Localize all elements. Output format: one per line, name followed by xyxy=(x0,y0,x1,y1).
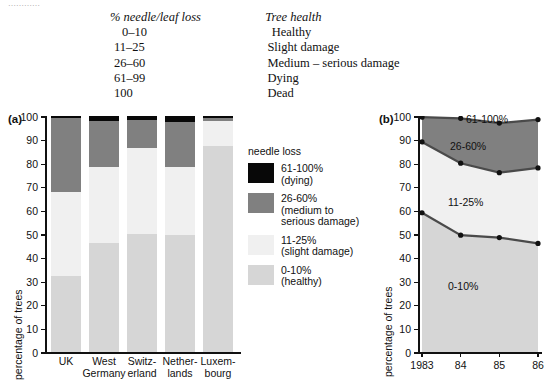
chart-panel-b: (b) percentage of trees 0102030405060708… xyxy=(374,105,546,380)
panel-b-y-tick-label: 60 xyxy=(385,206,411,216)
bar-segment-dying xyxy=(127,116,157,120)
panel-a-y-tick-label: 30 xyxy=(12,277,38,287)
key-loss-value: 0–10 xyxy=(100,25,272,40)
panel-b-x-tick xyxy=(421,353,422,357)
data-point-marker[interactable] xyxy=(535,117,540,122)
data-point-marker[interactable] xyxy=(535,241,540,246)
legend-label-line: 61-100% xyxy=(281,163,323,175)
bar-segment-dying xyxy=(89,116,119,121)
panel-b-y-tick xyxy=(414,258,418,259)
panel-b-x-tick xyxy=(499,353,500,357)
key-loss-value: 61–99 xyxy=(100,71,267,86)
panel-b-y-tick-label: 30 xyxy=(385,277,411,287)
bar-segment-dying xyxy=(203,116,233,118)
bar-segment-dying xyxy=(51,116,81,118)
key-table-row: 61–99 Dying xyxy=(100,71,440,86)
top-text-fragment: ………… xyxy=(8,0,128,7)
panel-a-y-tick xyxy=(41,164,45,165)
legend: needle loss 61-100%(dying)26-60%(medium … xyxy=(248,145,376,295)
bar-segment-dying xyxy=(165,116,195,122)
data-point-marker[interactable] xyxy=(497,235,502,240)
panel-a-y-tick-label: 50 xyxy=(12,230,38,240)
legend-label: 61-100%(dying) xyxy=(281,163,323,186)
key-table-header-row: % needle/leaf loss Tree health xyxy=(100,10,440,25)
legend-label-line: (healthy) xyxy=(281,276,322,288)
legend-label: 0-10%(healthy) xyxy=(281,265,322,288)
area-annotation: 26-60% xyxy=(450,140,486,152)
bar-segment-healthy xyxy=(165,235,195,352)
legend-swatch xyxy=(248,193,274,213)
data-point-marker[interactable] xyxy=(458,233,463,238)
panel-b-x-tick-label: 86 xyxy=(520,359,546,371)
key-table-row: 100 Dead xyxy=(100,86,440,101)
panel-b-y-tick xyxy=(414,211,418,212)
bar-segment-medium xyxy=(89,121,119,167)
panel-b-y-tick-label: 50 xyxy=(385,230,411,240)
panel-a-y-tick xyxy=(41,258,45,259)
panel-a-y-tick xyxy=(41,140,45,141)
stacked-bar[interactable] xyxy=(165,116,195,352)
data-point-marker[interactable] xyxy=(497,170,502,175)
legend-label: 26-60%(medium toserious damage) xyxy=(281,193,359,228)
legend-item[interactable]: 61-100%(dying) xyxy=(248,163,376,186)
bar-segment-slight xyxy=(165,167,195,235)
panel-a-y-tick-label: 40 xyxy=(12,253,38,263)
panel-b-y-tick xyxy=(414,116,418,117)
panel-b-y-tick-label: 80 xyxy=(385,159,411,169)
legend-item[interactable]: 0-10%(healthy) xyxy=(248,265,376,288)
area-annotation: 61-100% xyxy=(466,113,508,125)
panel-a-y-tick-label: 70 xyxy=(12,182,38,192)
data-point-marker[interactable] xyxy=(535,165,540,170)
x-tick-label-line: Luxem- xyxy=(195,356,241,368)
panel-b-y-tick-label: 40 xyxy=(385,253,411,263)
bar-segment-healthy xyxy=(89,243,119,352)
key-health-value: Medium – serious damage xyxy=(267,56,440,71)
key-table-row: 0–10 Healthy xyxy=(100,25,440,40)
legend-items: 61-100%(dying)26-60%(medium toserious da… xyxy=(248,163,376,288)
panel-b-x-tick-label: 84 xyxy=(443,359,479,371)
key-loss-value: 26–60 xyxy=(100,56,267,71)
panel-a-y-tick-label: 90 xyxy=(12,135,38,145)
key-table-row: 26–60 Medium – serious damage xyxy=(100,56,440,71)
bar-segment-slight xyxy=(89,167,119,244)
panel-b-x-tick-label: 1983 xyxy=(404,359,440,371)
area-annotation: 0-10% xyxy=(448,280,478,292)
legend-swatch xyxy=(248,235,274,255)
panel-a-y-tick-label: 60 xyxy=(12,206,38,216)
bar-segment-medium xyxy=(165,122,195,167)
area-annotation: 11-25% xyxy=(448,196,483,208)
legend-swatch xyxy=(248,163,274,183)
stacked-bar[interactable] xyxy=(89,116,119,352)
bar-segment-medium xyxy=(51,118,81,191)
legend-item[interactable]: 26-60%(medium toserious damage) xyxy=(248,193,376,228)
panel-b-x-tick xyxy=(537,353,538,357)
bar-segment-healthy xyxy=(127,234,157,352)
stacked-bar[interactable] xyxy=(127,116,157,352)
panel-a-x-tick-label: Luxem-bourg xyxy=(195,356,241,379)
panel-a-y-tick-label: 20 xyxy=(12,300,38,310)
key-health-value: Dead xyxy=(267,86,440,101)
panel-a-y-tick-label: 10 xyxy=(12,324,38,334)
panel-b-y-tick xyxy=(414,329,418,330)
legend-title: needle loss xyxy=(248,145,376,157)
panel-a-y-tick xyxy=(41,116,45,117)
panel-b-y-tick xyxy=(414,187,418,188)
data-point-marker[interactable] xyxy=(458,116,463,121)
panel-a-y-tick-label: 80 xyxy=(12,159,38,169)
panel-a-y-tick xyxy=(41,282,45,283)
chart-panel-a: (a) percentage of trees 0102030405060708… xyxy=(0,105,250,380)
panel-b-y-tick xyxy=(414,164,418,165)
panel-b-y-tick-label: 0 xyxy=(385,348,411,358)
data-point-marker[interactable] xyxy=(458,161,463,166)
stacked-bar[interactable] xyxy=(51,116,81,352)
stacked-bar[interactable] xyxy=(203,116,233,352)
panel-b-y-tick-label: 10 xyxy=(385,324,411,334)
panel-a-y-tick xyxy=(41,352,45,353)
legend-item[interactable]: 11-25%(slight damage) xyxy=(248,235,376,258)
key-health-value: Dying xyxy=(267,71,440,86)
panel-b-y-tick xyxy=(414,305,418,306)
bar-segment-healthy xyxy=(51,276,81,352)
key-loss-value: 11–25 xyxy=(100,40,267,55)
legend-label-line: (slight damage) xyxy=(281,246,353,258)
panel-b-y-tick xyxy=(414,234,418,235)
